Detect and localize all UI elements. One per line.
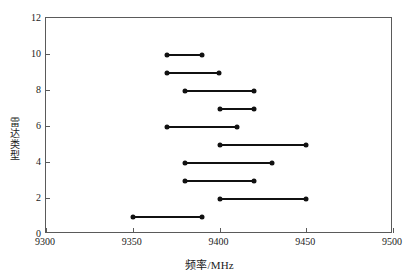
y-tick-6 bbox=[45, 126, 50, 127]
range-end-marker bbox=[252, 106, 257, 111]
x-axis-title-text: 频率/MHz bbox=[185, 259, 234, 271]
x-tick-9300 bbox=[46, 228, 47, 233]
x-tick-label-9450: 9450 bbox=[295, 236, 315, 247]
range-line bbox=[167, 72, 219, 74]
y-tick-2 bbox=[45, 198, 50, 199]
range-line bbox=[185, 162, 272, 164]
y-tick-label-4: 4 bbox=[36, 156, 41, 167]
range-end-marker bbox=[252, 88, 257, 93]
y-tick-label-8: 8 bbox=[36, 84, 41, 95]
x-axis-title: 频率/MHz bbox=[0, 256, 419, 272]
plot-area bbox=[45, 17, 392, 233]
range-segment-type-1 bbox=[133, 216, 202, 217]
range-line bbox=[185, 180, 254, 182]
range-segment-type-5 bbox=[220, 144, 307, 145]
range-end-marker bbox=[234, 124, 239, 129]
y-tick-label-0: 0 bbox=[36, 228, 41, 239]
range-end-marker bbox=[200, 214, 205, 219]
range-start-marker bbox=[165, 124, 170, 129]
x-tick-9500 bbox=[393, 228, 394, 233]
y-tick-label-6: 6 bbox=[36, 120, 41, 131]
y-tick-label-12: 12 bbox=[31, 12, 41, 23]
range-segment-type-6 bbox=[167, 126, 236, 127]
range-start-marker bbox=[182, 88, 187, 93]
x-tick-9400 bbox=[220, 228, 221, 233]
range-line bbox=[220, 198, 307, 200]
range-line bbox=[185, 90, 254, 92]
range-start-marker bbox=[217, 106, 222, 111]
range-segment-type-9 bbox=[167, 72, 219, 73]
range-line bbox=[220, 108, 255, 110]
range-segment-type-10 bbox=[167, 54, 202, 55]
range-start-marker bbox=[165, 52, 170, 57]
x-tick-label-9400: 9400 bbox=[209, 236, 229, 247]
range-start-marker bbox=[217, 142, 222, 147]
range-segment-type-3 bbox=[185, 180, 254, 181]
x-tick-label-9500: 9500 bbox=[382, 236, 402, 247]
range-start-marker bbox=[217, 196, 222, 201]
range-start-marker bbox=[130, 214, 135, 219]
range-end-marker bbox=[304, 196, 309, 201]
chart-figure: 93009350940094509500 024681012 频率/MHz 雷达… bbox=[0, 0, 419, 278]
y-axis-title: 雷达类型 bbox=[6, 0, 22, 278]
range-end-marker bbox=[200, 52, 205, 57]
x-tick-9450 bbox=[306, 228, 307, 233]
range-line bbox=[167, 126, 236, 128]
y-tick-label-2: 2 bbox=[36, 192, 41, 203]
range-end-marker bbox=[269, 160, 274, 165]
y-tick-8 bbox=[45, 90, 50, 91]
range-segment-type-4 bbox=[185, 162, 272, 163]
range-end-marker bbox=[304, 142, 309, 147]
y-tick-10 bbox=[45, 54, 50, 55]
range-start-marker bbox=[182, 178, 187, 183]
x-tick-9350 bbox=[133, 228, 134, 233]
range-end-marker bbox=[252, 178, 257, 183]
range-line bbox=[133, 216, 202, 218]
y-tick-label-10: 10 bbox=[31, 48, 41, 59]
range-start-marker bbox=[165, 70, 170, 75]
range-segment-type-7 bbox=[220, 108, 255, 109]
y-tick-4 bbox=[45, 162, 50, 163]
range-line bbox=[167, 54, 202, 56]
range-end-marker bbox=[217, 70, 222, 75]
range-segment-type-2 bbox=[220, 198, 307, 199]
x-tick-label-9350: 9350 bbox=[122, 236, 142, 247]
range-start-marker bbox=[182, 160, 187, 165]
range-line bbox=[220, 144, 307, 146]
y-axis-title-text: 雷达类型 bbox=[9, 117, 20, 161]
range-segment-type-8 bbox=[185, 90, 254, 91]
